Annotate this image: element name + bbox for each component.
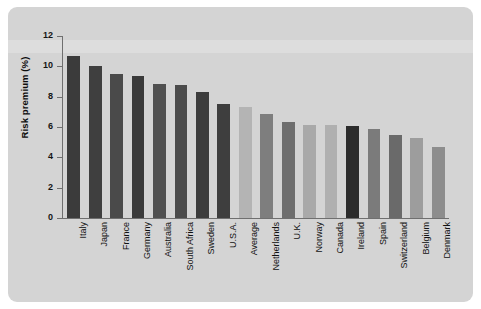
- bar[interactable]: [89, 66, 102, 218]
- bar-series: [63, 36, 449, 218]
- y-tick: 0: [0, 218, 62, 219]
- bar-slot: [110, 36, 123, 218]
- bar[interactable]: [239, 107, 252, 218]
- bar-slot: [260, 36, 273, 218]
- y-tick-mark: [57, 36, 62, 37]
- y-tick: 8: [0, 97, 62, 98]
- bar[interactable]: [217, 104, 230, 219]
- bar[interactable]: [132, 76, 145, 218]
- bar-slot: [175, 36, 188, 218]
- bar-slot: [389, 36, 402, 218]
- category-label-holder: Japan: [84, 222, 105, 302]
- bar-slot: [282, 36, 295, 218]
- category-label-holder: Ireland: [342, 222, 363, 302]
- y-tick-label: 0: [31, 213, 53, 222]
- category-label-holder: Sweden: [192, 222, 213, 302]
- y-tick-mark: [57, 127, 62, 128]
- y-tick-mark: [57, 157, 62, 158]
- category-label-holder: Netherlands: [256, 222, 277, 302]
- category-label-holder: Australia: [149, 222, 170, 302]
- bar[interactable]: [110, 74, 123, 218]
- bar-slot: [196, 36, 209, 218]
- category-label-holder: Canada: [320, 222, 341, 302]
- category-label-holder: Germany: [127, 222, 148, 302]
- y-tick-mark: [57, 218, 62, 219]
- bar-slot: [217, 36, 230, 218]
- y-tick: 12: [0, 36, 62, 37]
- category-label-holder: Spain: [363, 222, 384, 302]
- bar[interactable]: [196, 92, 209, 218]
- category-label-holder: U.K.: [277, 222, 298, 302]
- category-label-holder: Average: [235, 222, 256, 302]
- bar-slot: [67, 36, 80, 218]
- bar-slot: [346, 36, 359, 218]
- y-tick-mark: [57, 66, 62, 67]
- bar-chart: Risk premium (%) 024681012 ItalyJapanFra…: [0, 0, 481, 309]
- bar-slot: [432, 36, 445, 218]
- bar[interactable]: [153, 84, 166, 218]
- bar[interactable]: [410, 138, 423, 218]
- category-label: Denmark: [442, 222, 452, 259]
- category-label-holder: U.S.A.: [213, 222, 234, 302]
- chart-screenshot: Risk premium (%) 024681012 ItalyJapanFra…: [0, 0, 481, 309]
- bar[interactable]: [325, 125, 338, 218]
- y-tick-label: 8: [31, 92, 53, 101]
- category-label-holder: France: [106, 222, 127, 302]
- y-tick: 2: [0, 188, 62, 189]
- x-axis-line: [62, 218, 449, 219]
- y-tick-label: 4: [31, 152, 53, 161]
- bar[interactable]: [260, 114, 273, 218]
- category-label-holder: Belgium: [406, 222, 427, 302]
- category-label-holder: Switzerland: [385, 222, 406, 302]
- bar-slot: [303, 36, 316, 218]
- bar[interactable]: [303, 125, 316, 218]
- bar-slot: [239, 36, 252, 218]
- y-tick-label: 12: [31, 31, 53, 40]
- bar[interactable]: [432, 147, 445, 218]
- bar-slot: [368, 36, 381, 218]
- category-label-holder: Denmark: [428, 222, 449, 302]
- category-label-holder: Italy: [63, 222, 84, 302]
- y-tick: 4: [0, 157, 62, 158]
- bar[interactable]: [346, 126, 359, 218]
- bar-slot: [325, 36, 338, 218]
- bar-slot: [132, 36, 145, 218]
- bar[interactable]: [368, 129, 381, 218]
- y-tick-mark: [57, 188, 62, 189]
- y-tick-label: 10: [31, 61, 53, 70]
- y-tick: 10: [0, 66, 62, 67]
- y-tick-label: 6: [31, 122, 53, 131]
- x-axis-category-labels: ItalyJapanFranceGermanyAustraliaSouth Af…: [63, 222, 449, 302]
- y-tick-mark: [57, 97, 62, 98]
- bar[interactable]: [67, 56, 80, 218]
- bar-slot: [89, 36, 102, 218]
- y-tick-label: 2: [31, 183, 53, 192]
- y-tick: 6: [0, 127, 62, 128]
- bar[interactable]: [389, 135, 402, 218]
- bar-slot: [153, 36, 166, 218]
- category-label-holder: Norway: [299, 222, 320, 302]
- bar[interactable]: [175, 85, 188, 218]
- bar-slot: [410, 36, 423, 218]
- category-label-holder: South Africa: [170, 222, 191, 302]
- bar[interactable]: [282, 122, 295, 218]
